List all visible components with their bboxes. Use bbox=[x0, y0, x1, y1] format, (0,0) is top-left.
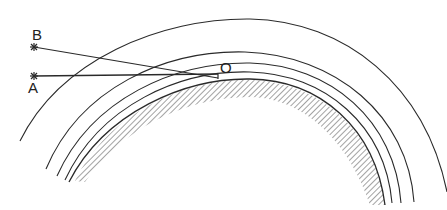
refraction-diagram: B A O bbox=[0, 0, 447, 210]
label-a: A bbox=[28, 79, 38, 96]
label-o: O bbox=[220, 59, 232, 76]
earth-surface-hatched bbox=[75, 80, 385, 205]
ray-from-b bbox=[34, 47, 218, 78]
label-b: B bbox=[32, 26, 42, 43]
ray-from-a bbox=[34, 74, 218, 76]
star-b-marker bbox=[30, 43, 38, 51]
